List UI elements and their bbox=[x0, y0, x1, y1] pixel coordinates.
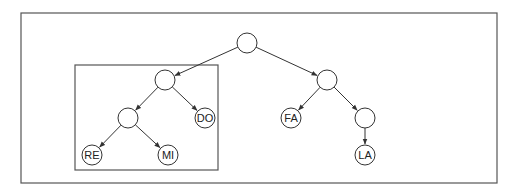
node-mi: MI bbox=[158, 145, 178, 165]
node-circle bbox=[237, 33, 257, 53]
edge-arrow bbox=[299, 87, 321, 110]
node-n3 bbox=[317, 70, 337, 90]
node-n1 bbox=[155, 70, 175, 90]
edge-arrow bbox=[136, 87, 158, 110]
node-do: DO bbox=[195, 108, 215, 128]
edge-arrow bbox=[175, 47, 238, 75]
edge-arrow bbox=[172, 87, 197, 111]
node-root bbox=[237, 33, 257, 53]
nodes: DOREMIFALA bbox=[82, 33, 375, 165]
node-label: RE bbox=[84, 149, 99, 161]
node-n2 bbox=[118, 108, 138, 128]
node-label: LA bbox=[358, 149, 372, 161]
node-circle bbox=[155, 70, 175, 90]
node-label: FA bbox=[284, 112, 298, 124]
node-re: RE bbox=[82, 145, 102, 165]
edge-arrow bbox=[256, 47, 317, 75]
node-circle bbox=[317, 70, 337, 90]
edges bbox=[100, 47, 365, 147]
node-circle bbox=[355, 108, 375, 128]
node-n4 bbox=[355, 108, 375, 128]
node-la: LA bbox=[355, 145, 375, 165]
edge-arrow bbox=[135, 125, 160, 148]
node-label: MI bbox=[162, 149, 174, 161]
node-fa: FA bbox=[281, 108, 301, 128]
edge-arrow bbox=[100, 125, 121, 147]
node-label: DO bbox=[197, 112, 214, 124]
edge-arrow bbox=[334, 87, 357, 110]
tree-diagram: DOREMIFALA bbox=[0, 0, 524, 192]
node-circle bbox=[118, 108, 138, 128]
